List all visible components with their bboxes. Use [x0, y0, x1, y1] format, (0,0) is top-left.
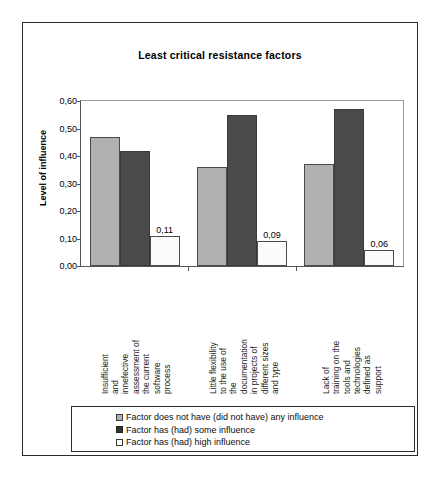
- bar-value-label: 0,06: [371, 239, 389, 249]
- x-category-label-line: in projects of: [250, 269, 258, 394]
- bar-group: 0,06: [296, 101, 403, 266]
- y-tick-label: 0,10: [59, 234, 77, 244]
- x-category-label-line: Lack of: [322, 269, 330, 394]
- x-axis-category-labels: Insufficientandinnefectiveassessment oft…: [80, 269, 404, 394]
- legend-label: Factor has (had) high influence: [126, 437, 250, 447]
- x-category-label-line: and: [111, 269, 119, 394]
- bar-groups: 0,110,090,06: [81, 101, 403, 266]
- bar-none[interactable]: [90, 137, 120, 266]
- legend-item[interactable]: Factor has (had) some influence: [116, 424, 414, 437]
- x-category-label: Insufficientandinnefectiveassessment oft…: [80, 269, 188, 394]
- legend-item[interactable]: Factor does not have (did not have) any …: [116, 411, 414, 424]
- legend-swatch-icon: [116, 439, 123, 446]
- bar-some[interactable]: [120, 151, 150, 267]
- bar-value-label: 0,11: [156, 225, 173, 235]
- x-category-label-line: documentation: [240, 269, 248, 394]
- chart-legend: Factor does not have (did not have) any …: [71, 406, 415, 452]
- legend-item[interactable]: Factor has (had) high influence: [116, 436, 414, 449]
- bar-none[interactable]: [304, 164, 334, 266]
- plot-area: 0,600,500,400,300,200,100,00 0,110,090,0…: [80, 100, 404, 267]
- x-category-label-line: to the use of: [219, 269, 227, 394]
- x-category-label-line: Little flexibility: [209, 269, 217, 394]
- y-tick-label: 0,30: [59, 179, 77, 189]
- chart-title: Least critical resistance factors: [23, 49, 417, 61]
- x-category-label-line: assessment of: [132, 269, 140, 394]
- y-tick-label: 0,40: [59, 151, 77, 161]
- x-category-label-line: software: [153, 269, 161, 394]
- y-tick-label: 0,00: [59, 261, 77, 271]
- x-category-label-line: the: [229, 269, 237, 394]
- x-category-label-line: the current: [142, 269, 150, 394]
- legend-label: Factor has (had) some influence: [126, 425, 255, 435]
- x-category-label-line: innefective: [121, 269, 129, 394]
- x-category-label-line: support: [374, 269, 382, 394]
- legend-label: Factor does not have (did not have) any …: [126, 412, 324, 422]
- bar-high[interactable]: 0,06: [364, 250, 394, 267]
- bar-some[interactable]: [334, 109, 364, 266]
- x-category-label-line: tools and: [343, 269, 351, 394]
- y-tick-mark: [77, 266, 81, 267]
- chart-figure-frame: Least critical resistance factors Level …: [22, 22, 418, 456]
- x-category-label-line: process: [163, 269, 171, 394]
- x-category-label-line: defined as: [363, 269, 371, 394]
- bar-value-label: 0,09: [263, 230, 281, 240]
- bar-high[interactable]: 0,11: [150, 236, 180, 266]
- x-category-label-line: training on the: [332, 269, 340, 394]
- x-category-label: Little flexibilityto the use ofthedocume…: [188, 269, 296, 394]
- legend-swatch-icon: [116, 426, 123, 433]
- y-tick-label: 0,20: [59, 206, 77, 216]
- y-tick-label: 0,60: [59, 96, 77, 106]
- bar-some[interactable]: [227, 115, 257, 266]
- bar-group: 0,11: [81, 101, 188, 266]
- bar-high[interactable]: 0,09: [257, 241, 287, 266]
- bar-none[interactable]: [197, 167, 227, 266]
- x-category-label-line: technologies: [353, 269, 361, 394]
- x-category-label-line: different sizes: [261, 269, 269, 394]
- legend-swatch-icon: [116, 414, 123, 421]
- y-axis-title: Level of influence: [38, 108, 48, 228]
- x-category-label: Lack oftraining on thetools andtechnolog…: [296, 269, 404, 394]
- x-category-label-line: Insufficient: [101, 269, 109, 394]
- bar-group: 0,09: [188, 101, 295, 266]
- x-category-label-line: and type: [271, 269, 279, 394]
- y-tick-label: 0,50: [59, 124, 77, 134]
